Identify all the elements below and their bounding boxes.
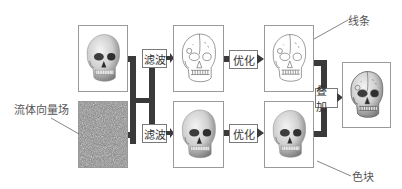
connector-bottom-stub	[128, 132, 136, 138]
optimized-color-image	[264, 101, 314, 168]
filter-top-box: 滤波	[142, 49, 167, 68]
connector-right-vertical	[149, 66, 155, 126]
vector-field-label: 流体向量场	[14, 101, 69, 117]
leader-line-color-blocks	[316, 160, 352, 178]
lines-label: 线条	[348, 12, 370, 28]
optimize-top-box: 优化	[229, 50, 258, 69]
optimize-top-label: 优化	[233, 52, 255, 68]
leader-line-lines	[313, 18, 349, 40]
filtered-lines-image	[173, 25, 224, 92]
color-blocks-label: 色块	[352, 168, 374, 184]
filter-bottom-label: 滤波	[144, 126, 166, 142]
arrow-icon	[257, 128, 264, 138]
vector-field-image	[78, 101, 128, 168]
optimize-bottom-box: 优化	[229, 124, 258, 143]
overlay-label: 叠加	[316, 82, 337, 114]
optimized-lines-image	[264, 25, 314, 92]
overlay-connector-bottom	[314, 131, 326, 137]
filter-bottom-box: 滤波	[142, 124, 167, 143]
connector-crossbar	[130, 98, 155, 103]
input-skull-image	[78, 25, 128, 92]
result-image	[342, 62, 391, 128]
arrow-icon	[257, 54, 264, 64]
leader-line-vector-field	[50, 117, 80, 135]
overlay-box: 叠加	[315, 88, 338, 108]
connector-top-stub	[128, 56, 136, 62]
filtered-color-image	[173, 101, 224, 168]
filter-top-label: 滤波	[144, 51, 166, 67]
optimize-bottom-label: 优化	[233, 126, 255, 142]
